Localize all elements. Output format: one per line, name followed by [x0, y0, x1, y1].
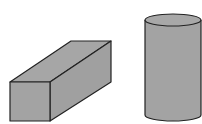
- rectangular-prism: [10, 41, 111, 121]
- cylinder-body: [145, 20, 201, 121]
- cylinder-top: [145, 14, 201, 26]
- prism-front-face: [10, 82, 50, 121]
- cylinder: [145, 14, 201, 121]
- geometry-figure: [0, 0, 202, 124]
- shapes-svg: [0, 0, 202, 124]
